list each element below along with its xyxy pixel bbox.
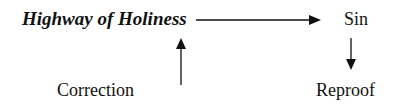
arrow-correction-to-highway xyxy=(176,38,186,85)
arrow-highway-to-sin xyxy=(196,15,321,25)
arrow-sin-to-reproof xyxy=(346,38,356,70)
arrows-layer xyxy=(0,0,402,109)
